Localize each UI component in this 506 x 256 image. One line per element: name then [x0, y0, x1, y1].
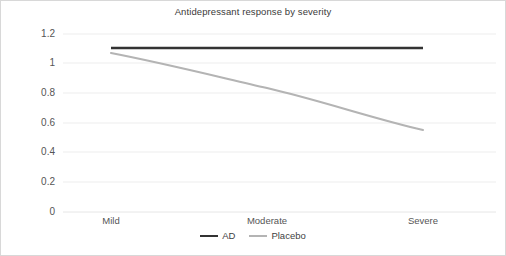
- legend-entry-ad[interactable]: AD: [200, 231, 235, 241]
- legend-entry-placebo[interactable]: Placebo: [249, 231, 305, 241]
- y-axis-tick-1.0: 1: [1, 58, 55, 68]
- y-axis-tick-0.2: 0.2: [1, 177, 55, 187]
- chart-container: Antidepressant response by severity 1.2 …: [0, 0, 506, 256]
- legend-swatch-placebo: [249, 235, 267, 237]
- x-axis-tick-severe: Severe: [368, 216, 478, 226]
- chart-legend: AD Placebo: [1, 231, 505, 241]
- legend-swatch-ad: [200, 235, 218, 237]
- y-axis-tick-0.8: 0.8: [1, 88, 55, 98]
- y-axis-tick-1.2: 1.2: [1, 29, 55, 39]
- x-axis-tick-mild: Mild: [56, 216, 166, 226]
- y-axis-tick-0.6: 0.6: [1, 118, 55, 128]
- gridlines: [63, 34, 496, 212]
- legend-label-placebo: Placebo: [271, 231, 305, 241]
- legend-label-ad: AD: [222, 231, 235, 241]
- y-axis-tick-0: 0: [1, 207, 55, 217]
- series-line-placebo: [111, 53, 423, 130]
- x-axis-tick-moderate: Moderate: [212, 216, 322, 226]
- y-axis-tick-0.4: 0.4: [1, 147, 55, 157]
